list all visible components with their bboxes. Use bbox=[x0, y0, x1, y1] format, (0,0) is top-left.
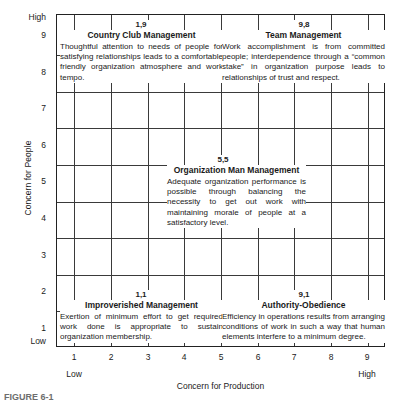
y-tick-7: 7 bbox=[6, 104, 46, 113]
x-axis-title: Concern for Production bbox=[56, 381, 385, 391]
y-tick-5: 5 bbox=[6, 177, 46, 186]
cell-title: Authority-Obedience bbox=[222, 300, 385, 311]
cell-text: Thoughtful attention to needs of people … bbox=[60, 42, 223, 83]
x-tick-1: 1 bbox=[59, 352, 89, 362]
y-tick-3: 3 bbox=[6, 251, 46, 260]
cell-text: Adequate organization performance is pos… bbox=[167, 177, 306, 228]
x-tick-5: 5 bbox=[206, 352, 236, 362]
cell-authority-obedience: Authority-Obedience Efficiency in operat… bbox=[222, 300, 385, 343]
x-tick-7: 7 bbox=[279, 352, 309, 362]
managerial-grid-figure: Concern for People High 9 8 7 6 5 4 3 2 … bbox=[0, 0, 404, 401]
cell-text: Efficiency in operations results from ar… bbox=[222, 312, 385, 343]
grid-line-horizontal bbox=[57, 238, 384, 239]
x-tick-3: 3 bbox=[133, 352, 163, 362]
cell-country-club-management: Country Club Management Thoughtful atten… bbox=[60, 30, 223, 83]
x-tick-4: 4 bbox=[169, 352, 199, 362]
cell-improverished-management: Improverished Management Exertion of min… bbox=[60, 300, 223, 343]
cell-coord-9-1: 9,1 bbox=[284, 290, 324, 300]
grid-line-horizontal bbox=[57, 128, 384, 129]
grid-plot-area: 1,9 Country Club Management Thoughtful a… bbox=[56, 14, 385, 347]
y-tick-8: 8 bbox=[6, 68, 46, 77]
y-tick-6: 6 bbox=[6, 141, 46, 150]
y-axis-high-label: High bbox=[6, 13, 46, 22]
cell-text: Exertion of minimum effort to get requir… bbox=[60, 312, 223, 343]
x-tick-6: 6 bbox=[243, 352, 273, 362]
cell-title: Team Management bbox=[222, 30, 385, 41]
x-tick-9: 9 bbox=[352, 352, 382, 362]
cell-organization-man-management: Organization Man Management Adequate org… bbox=[167, 165, 306, 228]
cell-title: Country Club Management bbox=[60, 30, 223, 41]
x-axis-low-label: Low bbox=[54, 369, 94, 379]
cell-coord-1-1: 1,1 bbox=[121, 290, 161, 300]
cell-coord-1-9: 1,9 bbox=[121, 20, 161, 30]
grid-line-horizontal bbox=[57, 275, 384, 276]
cell-coord-5-5: 5,5 bbox=[203, 155, 243, 165]
cell-text: Work accomplishment is from committed pe… bbox=[222, 42, 385, 83]
figure-caption: FIGURE 6-1 bbox=[4, 392, 400, 401]
y-tick-4: 4 bbox=[6, 214, 46, 223]
y-tick-2: 2 bbox=[6, 287, 46, 296]
y-axis-low-label: Low bbox=[6, 337, 46, 346]
x-axis-high-label: High bbox=[347, 369, 387, 379]
grid-line-horizontal bbox=[57, 92, 384, 93]
cell-team-management: Team Management Work accomplishment is f… bbox=[222, 30, 385, 83]
y-tick-1: 1 bbox=[6, 324, 46, 333]
cell-title: Organization Man Management bbox=[153, 165, 320, 176]
cell-coord-9-8: 9,8 bbox=[284, 20, 324, 30]
x-tick-2: 2 bbox=[96, 352, 126, 362]
x-tick-8: 8 bbox=[316, 352, 346, 362]
y-tick-9: 9 bbox=[6, 31, 46, 40]
cell-title: Improverished Management bbox=[60, 300, 223, 311]
